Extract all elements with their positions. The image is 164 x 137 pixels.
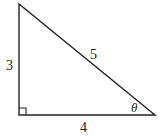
triangle-diagram: 3 5 4 θ bbox=[0, 0, 164, 137]
label-vertical-leg: 3 bbox=[6, 58, 13, 73]
triangle-outline bbox=[19, 4, 155, 115]
right-angle-marker bbox=[19, 108, 26, 115]
label-horizontal-leg: 4 bbox=[80, 120, 87, 135]
label-hypotenuse: 5 bbox=[90, 47, 97, 62]
label-angle-theta: θ bbox=[131, 100, 138, 115]
